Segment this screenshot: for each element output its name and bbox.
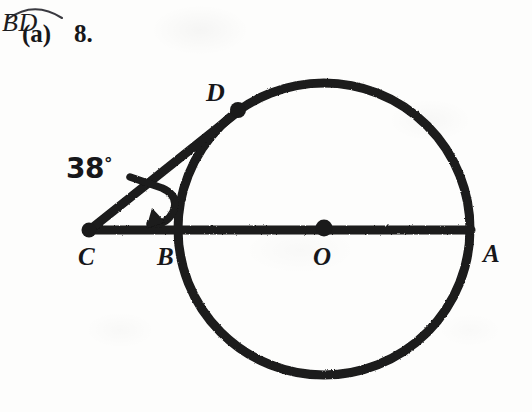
point-label-D: D [206, 78, 225, 108]
degree-symbol: ° [104, 154, 112, 174]
point-label-C: C [78, 243, 95, 271]
point-dot-C [82, 223, 97, 238]
geometry-diagram [0, 0, 532, 412]
angle-measure-label: 38° [66, 152, 112, 185]
point-dot-O [316, 220, 333, 237]
figure-page: (a) 8. BD [0, 0, 532, 412]
angle-pointer-arrow [130, 177, 175, 229]
point-label-B: B [157, 243, 174, 271]
point-label-A: A [483, 240, 500, 268]
point-label-O: O [313, 243, 331, 271]
point-dot-D [230, 102, 246, 118]
secant-line-CD [92, 110, 240, 228]
angle-measure-value: 38 [66, 152, 104, 185]
